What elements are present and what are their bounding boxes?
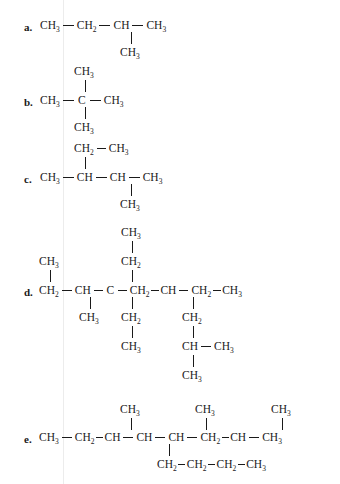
bond-horizontal [129,177,140,178]
item-c-main-chain: CH3 CH CH CH3 [40,172,162,184]
bond-horizontal [63,100,74,101]
branch-group-ch3: CH3 [74,122,94,134]
branch-group-ch3: CH3 [39,256,59,268]
branch-group-ch3: CH3 [120,404,140,416]
bond-vertical [206,418,207,430]
branch-group-ch3: CH3 [121,341,141,353]
branch-group-ch2: CH2 [74,143,94,155]
branch-group-ch3: CH3 [74,66,94,78]
branch-group-ch3: CH3 [271,404,291,416]
group-ch3: CH3 [262,432,282,444]
bond-horizontal [238,464,245,465]
branch-group-ch2: CH2 [187,459,207,471]
bond-horizontal [99,25,110,26]
item-e-branch-butyl: CH2 CH2 CH2 CH3 [157,459,266,471]
bond-horizontal [97,148,106,149]
item-e-main-chain: CH3 CH2 CH CH CH CH2 CH CH3 [39,432,282,444]
bond-horizontal [213,290,221,291]
group-ch2: CH2 [75,432,95,444]
branch-group-ch2: CH2 [157,459,177,471]
bond-horizontal [123,437,133,438]
page-margin-rule [63,0,64,484]
formula-sheet: a. CH3 CH2 CH CH3 CH3 CH3 b. CH3 C CH3 C… [0,0,340,484]
branch-group-ch3: CH3 [120,47,140,59]
group-ch3: CH3 [40,95,60,107]
bond-horizontal [90,100,101,101]
item-label-c: c. [24,174,32,185]
bond-horizontal [62,437,72,438]
group-ch2: CH2 [130,285,150,297]
bond-vertical [132,270,133,282]
bond-vertical [131,184,132,196]
branch-group-ch3: CH3 [109,143,129,155]
bond-horizontal [222,437,229,438]
bond-horizontal [249,437,259,438]
bond-vertical [193,326,194,338]
bond-horizontal [201,346,211,347]
group-ch: CH [104,432,120,444]
group-ch2: CH2 [200,432,220,444]
branch-group-ch3: CH3 [79,312,99,324]
bond-horizontal [208,464,215,465]
bond-vertical [85,157,86,169]
group-ch3: CH3 [222,285,242,297]
bond-horizontal [151,290,159,291]
group-ch2: CH2 [39,285,59,297]
group-ch: CH [113,20,129,32]
bond-horizontal [132,25,143,26]
branch-group-ch3: CH3 [121,227,141,239]
group-ch: CH [110,172,126,184]
item-b-main-chain: CH3 C CH3 [40,95,123,107]
group-ch2: CH2 [191,285,211,297]
bond-vertical [193,297,194,309]
bond-vertical [282,418,283,430]
branch-group-ch3: CH3 [182,370,202,382]
bond-horizontal [63,25,74,26]
bond-horizontal [62,290,72,291]
bond-vertical [132,326,133,338]
bond-vertical [193,355,194,367]
bond-horizontal [96,177,107,178]
group-ch: CH [75,285,91,297]
item-label-a: a. [24,22,32,33]
bond-horizontal [179,290,188,291]
group-c: C [77,95,87,107]
bond-horizontal [96,437,103,438]
group-c: C [106,285,115,297]
item-a-main-chain: CH3 CH2 CH CH3 [40,20,166,32]
item-label-e: e. [24,434,32,445]
bond-vertical [169,444,170,456]
bond-vertical [132,297,133,309]
group-ch3: CH3 [146,20,166,32]
group-ch2: CH2 [77,20,97,32]
group-ch3: CH3 [39,432,59,444]
branch-group-ch: CH [182,341,198,353]
bond-horizontal [63,177,74,178]
bond-horizontal [155,437,165,438]
group-ch3: CH3 [40,172,60,184]
branch-group-ch2: CH2 [216,459,236,471]
item-d-main-chain: CH2 CH C CH2 CH CH2 CH3 [39,285,242,297]
bond-vertical [85,107,86,119]
branch-group-ch2: CH2 [121,256,141,268]
bond-vertical [131,418,132,430]
group-ch3: CH3 [40,20,60,32]
group-ch3: CH3 [104,95,124,107]
bond-horizontal [178,464,185,465]
bond-horizontal [187,437,197,438]
branch-group-ch3: CH3 [246,459,266,471]
group-ch: CH [168,432,184,444]
branch-group-ch3: CH3 [120,199,140,211]
item-label-d: d. [24,287,33,298]
bond-vertical [50,270,51,282]
item-label-b: b. [24,97,33,108]
branch-group-ch3: CH3 [214,341,234,353]
group-ch: CH [160,285,176,297]
bond-horizontal [118,290,127,291]
bond-vertical [131,32,132,44]
bond-vertical [132,241,133,253]
bond-horizontal [94,290,103,291]
bond-vertical [90,297,91,309]
item-d-branch-isopropyl: CH CH3 [182,341,234,353]
group-ch: CH [136,432,152,444]
